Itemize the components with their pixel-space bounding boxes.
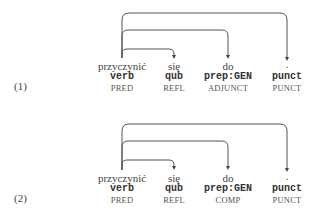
arc-pred-comp [122, 141, 228, 170]
example-number: (2) [14, 192, 27, 204]
dependency-example-2: (2) przyczynić verb PRED się qub REFL do… [0, 110, 321, 220]
token-tag: punct [247, 71, 321, 82]
token-label: PUNCT [247, 195, 321, 205]
example-number: (1) [14, 80, 27, 92]
token-tag: punct [247, 183, 321, 194]
arc-pred-refl [122, 160, 174, 170]
token-word: . [247, 170, 321, 182]
arrow-head-icon [226, 166, 230, 170]
token-word: . [247, 58, 321, 70]
arrow-head-icon [226, 55, 230, 59]
arrow-head-icon [172, 166, 176, 170]
arc-pred-punct [122, 124, 287, 170]
dependency-arcs [0, 0, 321, 110]
arrow-head-icon [172, 55, 176, 59]
arc-pred-refl [122, 49, 174, 58]
arc-pred-adjunct [122, 30, 228, 58]
token-label: PUNCT [247, 83, 321, 93]
arc-pred-punct [122, 13, 287, 59]
dependency-example-1: (1) przyczynić verb PRED się qub REFL do… [0, 0, 321, 110]
